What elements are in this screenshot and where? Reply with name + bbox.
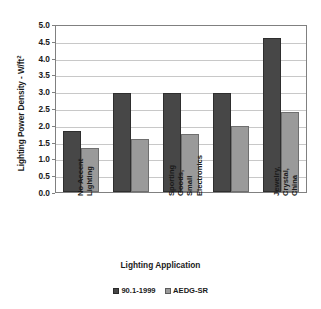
bar [131, 139, 149, 192]
x-axis-tick-label-line: Jewelry, [272, 167, 281, 196]
chart-legend: 90.1-1999AEDG-SR [0, 286, 321, 295]
y-axis-tick-label: 3.0 [22, 88, 50, 96]
y-axis-tick-label: 4.5 [22, 38, 50, 46]
y-axis-tick-label: 3.5 [22, 71, 50, 79]
y-axis-tick-label: 0.0 [22, 189, 50, 197]
x-axis-tick-label-line: Goods, [176, 155, 185, 196]
x-axis-tick-label: No AccentLighting [76, 159, 94, 196]
x-axis-tick-label-line: Electronics [195, 155, 204, 196]
y-axis-title-superscript: 2 [16, 56, 22, 59]
legend-label: 90.1-1999 [121, 286, 155, 295]
legend-label: AEDG-SR [173, 286, 208, 295]
y-axis-tick-label: 5.0 [22, 21, 50, 29]
y-axis-tick-label: 2.5 [22, 105, 50, 113]
bar [213, 93, 231, 192]
y-axis-tick-label: 1.0 [22, 155, 50, 163]
bar [113, 93, 131, 192]
x-axis-title: Lighting Application [0, 260, 321, 270]
bar [231, 126, 249, 192]
bar-group [113, 26, 149, 192]
x-axis-tick-label-line: China [290, 167, 299, 196]
y-axis-tick-label: 0.5 [22, 172, 50, 180]
legend-swatch-icon [165, 288, 171, 294]
x-axis-tick-label-line: Lighting [86, 159, 95, 196]
x-axis-tick-label: SportingGoods,SmallElectronics [167, 155, 204, 196]
legend-item[interactable]: AEDG-SR [165, 286, 209, 295]
bar-chart-figure: Lighting Power Density - W/ft2 5.04.54.0… [0, 0, 321, 309]
x-axis-tick-label-line: Crystal, [281, 167, 290, 196]
legend-item[interactable]: 90.1-1999 [113, 286, 156, 295]
bar-group [213, 26, 249, 192]
legend-swatch-icon [113, 288, 119, 294]
x-axis-tick-label: Jewelry,Crystal,China [272, 167, 300, 196]
y-axis-tick-mark [52, 193, 55, 194]
x-axis-tick-label-line: Small [186, 155, 195, 196]
y-axis-tick-label: 1.5 [22, 139, 50, 147]
y-axis-tick-label: 2.0 [22, 122, 50, 130]
y-axis-tick-label: 4.0 [22, 55, 50, 63]
x-axis-tick-label-line: Sporting [167, 155, 176, 196]
